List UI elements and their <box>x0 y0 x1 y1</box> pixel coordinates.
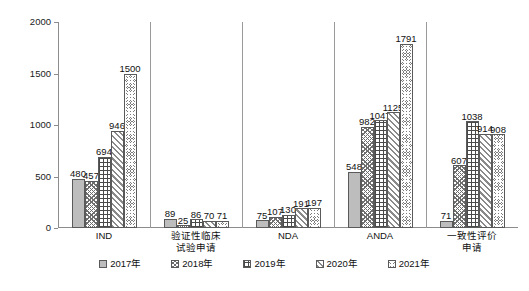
bar-slot: 75 <box>256 22 269 228</box>
category-label: NDA <box>242 230 334 253</box>
bar-slot: 1125 <box>387 22 400 228</box>
y-tick-label: 1000 <box>30 120 51 130</box>
bar-value-label: 89 <box>165 209 176 219</box>
bar-slot: 1500 <box>124 22 137 228</box>
legend-item-2021年[interactable]: 2021年 <box>388 259 430 269</box>
legend-item-2017年[interactable]: 2017年 <box>99 259 141 269</box>
bar[interactable]: 548 <box>348 172 361 228</box>
category-label: IND <box>58 230 150 253</box>
bar-value-label: 70 <box>204 211 215 221</box>
bar[interactable]: 1038 <box>466 121 479 228</box>
bar-slot: 25 <box>177 22 190 228</box>
bar-slot: 982 <box>361 22 374 228</box>
bar-group: 75107130191197 <box>242 22 334 228</box>
bar-groups: 4804576949461500892586707175107130191197… <box>58 22 518 228</box>
legend-label: 2019年 <box>254 259 285 269</box>
bar-slot: 107 <box>269 22 282 228</box>
bar[interactable]: 480 <box>72 179 85 228</box>
category-label: 验证性临床试验申请 <box>150 230 242 253</box>
bar-slot: 908 <box>492 22 505 228</box>
bar-slot: 197 <box>308 22 321 228</box>
y-tick-label: 2000 <box>30 17 51 27</box>
legend-item-2020年[interactable]: 2020年 <box>316 259 358 269</box>
y-tick-label: 1500 <box>30 69 51 79</box>
bar-group: 716071038914908 <box>426 22 518 228</box>
bar-value-label: 71 <box>217 211 228 221</box>
category-label-line: 试验申请 <box>150 242 242 254</box>
bar-slot: 86 <box>190 22 203 228</box>
bar[interactable]: 191 <box>295 208 308 228</box>
bar[interactable]: 607 <box>453 165 466 228</box>
legend-swatch-icon <box>316 260 324 268</box>
bar[interactable]: 908 <box>492 134 505 228</box>
legend-swatch-icon <box>388 260 396 268</box>
bar-group: 8925867071 <box>150 22 242 228</box>
bar-slot: 71 <box>216 22 229 228</box>
category-label-line: NDA <box>242 230 334 242</box>
bar[interactable]: 457 <box>85 181 98 228</box>
bar-slot: 89 <box>164 22 177 228</box>
legend-swatch-icon <box>171 260 179 268</box>
x-axis-category-labels: IND验证性临床试验申请NDAANDA一致性评价申请 <box>58 230 518 253</box>
bar-slot: 457 <box>85 22 98 228</box>
legend-swatch-icon <box>99 260 107 268</box>
bar[interactable]: 1500 <box>124 74 137 229</box>
bar-value-label: 1791 <box>395 34 416 44</box>
chart-legend: 2017年2018年2019年2020年2021年 <box>0 259 529 269</box>
bar-group: 548982104711251791 <box>334 22 426 228</box>
legend-item-2018年[interactable]: 2018年 <box>171 259 213 269</box>
bar-value-label: 25 <box>178 216 189 226</box>
bar-group: 4804576949461500 <box>58 22 150 228</box>
category-label: ANDA <box>334 230 426 253</box>
legend-swatch-icon <box>243 260 251 268</box>
legend-label: 2018年 <box>182 259 213 269</box>
bar-slot: 71 <box>440 22 453 228</box>
legend-label: 2017年 <box>110 259 141 269</box>
bar[interactable]: 75 <box>256 220 269 228</box>
bar-slot: 946 <box>111 22 124 228</box>
legend-label: 2021年 <box>399 259 430 269</box>
bar-chart: 0500100015002000 48045769494615008925867… <box>0 0 529 291</box>
bar[interactable]: 71 <box>216 221 229 228</box>
bar-value-label: 197 <box>306 198 322 208</box>
bar[interactable]: 71 <box>440 221 453 228</box>
bar-slot: 1791 <box>400 22 413 228</box>
bar-slot: 1047 <box>374 22 387 228</box>
bar-value-label: 1500 <box>119 64 140 74</box>
bar[interactable]: 130 <box>282 215 295 228</box>
bar[interactable]: 946 <box>111 131 124 228</box>
legend-label: 2020年 <box>327 259 358 269</box>
category-label-line: 验证性临床 <box>150 230 242 242</box>
bar[interactable]: 1791 <box>400 44 413 228</box>
category-label-line: 申请 <box>426 242 518 254</box>
bar[interactable]: 1125 <box>387 112 400 228</box>
bar[interactable]: 982 <box>361 127 374 228</box>
category-label-line: IND <box>58 230 150 242</box>
bar-value-label: 86 <box>191 210 202 220</box>
y-tick-label: 500 <box>35 172 51 182</box>
bar[interactable]: 914 <box>479 134 492 228</box>
bar[interactable]: 70 <box>203 221 216 228</box>
bar-slot: 70 <box>203 22 216 228</box>
bar[interactable]: 107 <box>269 217 282 228</box>
bar[interactable]: 197 <box>308 208 321 228</box>
plot-area: 0500100015002000 48045769494615008925867… <box>58 22 518 228</box>
y-tick-mark <box>54 228 58 229</box>
bar-value-label: 71 <box>441 211 452 221</box>
bar[interactable]: 694 <box>98 157 111 228</box>
bar-slot: 480 <box>72 22 85 228</box>
bar-value-label: 75 <box>257 211 268 221</box>
bar[interactable]: 25 <box>177 225 190 228</box>
y-tick-label: 0 <box>46 223 51 233</box>
legend-item-2019年[interactable]: 2019年 <box>243 259 285 269</box>
bar[interactable]: 1047 <box>374 120 387 228</box>
category-label-line: 一致性评价 <box>426 230 518 242</box>
category-label: 一致性评价申请 <box>426 230 518 253</box>
category-label-line: ANDA <box>334 230 426 242</box>
bar[interactable]: 89 <box>164 219 177 228</box>
bar-slot: 607 <box>453 22 466 228</box>
bar-value-label: 908 <box>490 125 506 135</box>
bar[interactable]: 86 <box>190 219 203 228</box>
